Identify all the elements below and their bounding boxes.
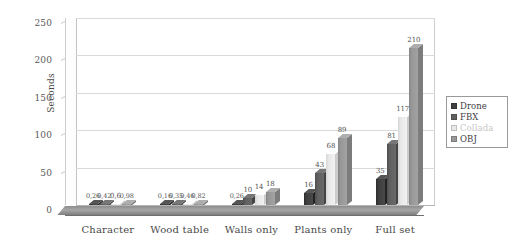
bar-side-face xyxy=(418,44,423,205)
x-category-label: Plants only xyxy=(294,224,352,235)
legend-item[interactable]: Collada xyxy=(451,122,503,133)
bar-value-label: 117 xyxy=(396,105,409,113)
bar-value-label: 10 xyxy=(244,186,253,194)
bar-group: 0,260,420,60,98 xyxy=(89,18,132,205)
y-tick-label: 150 xyxy=(18,93,52,103)
bar-group: 0,26101418 xyxy=(232,18,275,205)
legend-item[interactable]: OBJ xyxy=(451,133,503,144)
bar: 10 xyxy=(243,198,252,205)
bar-front-face xyxy=(338,138,347,205)
bar-front-face xyxy=(398,117,407,205)
bar: 35 xyxy=(376,179,385,205)
legend-label: Collada xyxy=(460,123,493,133)
bar-value-label: 18 xyxy=(266,180,275,188)
bars-layer: 0,260,420,60,980,160,350,460,820,2610141… xyxy=(76,18,435,205)
bar-side-face xyxy=(347,135,352,205)
bar: 210 xyxy=(409,48,418,205)
bar-value-label: 89 xyxy=(338,126,347,134)
legend-swatch-icon xyxy=(451,136,457,142)
legend-swatch-icon xyxy=(451,114,457,120)
chart-floor xyxy=(65,205,437,218)
bar-front-face xyxy=(304,193,313,205)
floor-front-edge xyxy=(65,215,424,216)
bar-chart: Seconds 050100150200250 0,260,420,60,980… xyxy=(0,0,522,249)
y-tick-label: 200 xyxy=(18,55,52,65)
bar-group: 3581117210 xyxy=(376,18,419,205)
bar-front-face xyxy=(266,192,275,205)
legend-label: FBX xyxy=(460,112,479,122)
bar-value-label: 43 xyxy=(315,161,324,169)
bar-value-label: 68 xyxy=(327,142,336,150)
y-tick-label: 250 xyxy=(18,18,52,28)
bar: 18 xyxy=(266,192,275,205)
x-category-label: Wood table xyxy=(150,224,209,235)
bar-value-label: 210 xyxy=(407,36,420,44)
x-category-label: Walls only xyxy=(225,224,278,235)
bar-front-face xyxy=(376,179,385,205)
legend-label: Drone xyxy=(460,101,487,111)
legend-swatch-icon xyxy=(451,125,457,131)
plot-side-wall xyxy=(65,18,76,205)
y-tick-label: 100 xyxy=(18,130,52,140)
y-tick-label: 0 xyxy=(18,205,52,215)
bar-value-label: 81 xyxy=(387,132,396,140)
bar-value-label: 35 xyxy=(376,167,385,175)
bar-value-label: 14 xyxy=(255,183,264,191)
bar: 43 xyxy=(315,173,324,205)
legend-swatch-icon xyxy=(451,103,457,109)
bar: 68 xyxy=(326,154,335,205)
legend: DroneFBXColladaOBJ xyxy=(446,96,508,148)
y-axis-ticks: 050100150200250 xyxy=(0,0,62,249)
bar-front-face xyxy=(255,195,264,205)
floor-face xyxy=(57,206,424,215)
bar-group: 0,160,350,460,82 xyxy=(160,18,203,205)
bar-front-face xyxy=(315,173,324,205)
x-category-label: Full set xyxy=(375,224,415,235)
bar-value-label: 0,98 xyxy=(120,192,134,200)
bar-front-face xyxy=(387,144,396,205)
legend-item[interactable]: FBX xyxy=(451,111,503,122)
y-tick-label: 50 xyxy=(18,168,52,178)
bar: 16 xyxy=(304,193,313,205)
bar: 117 xyxy=(398,117,407,205)
bar-value-label: 0,26 xyxy=(230,192,244,200)
bar-group: 16436889 xyxy=(304,18,347,205)
x-category-label: Character xyxy=(81,224,134,235)
bar: 89 xyxy=(338,138,347,205)
bar: 81 xyxy=(387,144,396,205)
bar-value-label: 0,82 xyxy=(191,192,205,200)
bar-value-label: 16 xyxy=(304,181,313,189)
legend-label: OBJ xyxy=(460,134,477,144)
legend-item[interactable]: Drone xyxy=(451,100,503,111)
bar: 14 xyxy=(255,195,264,205)
